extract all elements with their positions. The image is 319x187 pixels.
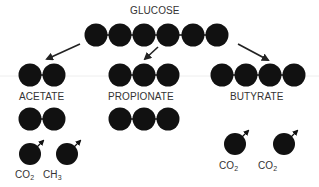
butyrate-co2-carbon-2 bbox=[273, 131, 297, 155]
propionate-chain bbox=[109, 64, 180, 87]
butyrate-chain bbox=[211, 64, 306, 87]
glucose-label: GLUCOSE bbox=[130, 5, 180, 16]
butyrate-co2-label-1: CO2 bbox=[219, 160, 238, 172]
acetate-chain bbox=[19, 64, 66, 87]
arrow-to-acetate bbox=[47, 44, 80, 59]
acetate-co2-label: CO2 bbox=[15, 169, 34, 181]
arrow-to-butyrate bbox=[238, 44, 268, 60]
acetate-ch3-label: CH3 bbox=[43, 169, 62, 181]
propionate-chain-2 bbox=[109, 108, 180, 131]
acetate-co2-carbon bbox=[19, 141, 43, 165]
acetate-ch3-carbon bbox=[56, 141, 80, 165]
butyrate-co2-label-2: CO2 bbox=[258, 160, 277, 172]
acetate-label: ACETATE bbox=[19, 91, 64, 102]
propionate-label: PROPIONATE bbox=[108, 91, 174, 102]
arrow-to-propionate bbox=[145, 47, 158, 59]
butyrate-label: BUTYRATE bbox=[230, 91, 283, 102]
acetate-chain-2 bbox=[19, 108, 66, 131]
butyrate-co2-carbon-1 bbox=[224, 131, 248, 155]
glucose-chain bbox=[85, 24, 229, 47]
